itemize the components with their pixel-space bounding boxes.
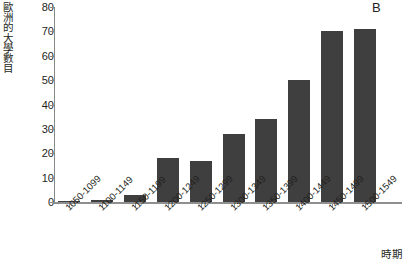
y-axis-tick: [50, 202, 54, 203]
y-axis-tick-label: 30: [20, 123, 54, 135]
x-axis-category-labels: 1050-10991100-11491150-11991200-12491250…: [54, 205, 406, 264]
y-axis-tick: [50, 31, 54, 32]
y-axis-tick-label: 40: [20, 99, 54, 111]
y-axis-tick-label: 60: [20, 50, 54, 62]
x-axis-title: 時期: [381, 246, 402, 261]
y-axis-tick-labels: 01020304050607080: [10, 0, 54, 210]
y-axis-tick-label: 70: [20, 25, 54, 37]
y-axis-tick-label: 20: [20, 147, 54, 159]
y-axis-tick: [50, 153, 54, 154]
y-axis-tick: [50, 56, 54, 57]
y-axis-tick: [50, 178, 54, 179]
y-axis-line: [54, 7, 55, 203]
bar-chart: 歐洲的大學數目 B 01020304050607080 1050-1099110…: [0, 0, 406, 264]
y-axis-tick-label: 80: [20, 1, 54, 13]
y-axis-tick: [50, 7, 54, 8]
y-axis-tick-label: 10: [20, 172, 54, 184]
y-axis-tick: [50, 129, 54, 130]
y-axis-tick-label: 50: [20, 74, 54, 86]
y-axis-tick: [50, 80, 54, 81]
y-axis-tick: [50, 105, 54, 106]
y-axis-tick-label: 0: [20, 196, 54, 208]
